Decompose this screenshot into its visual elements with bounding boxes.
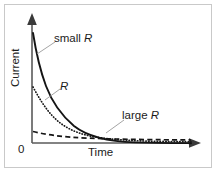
annotation-small-r-prefix: small xyxy=(54,32,84,44)
x-axis-label: Time xyxy=(88,147,113,159)
series-r-curve xyxy=(33,87,191,142)
annotation-small-r: small R xyxy=(54,33,92,45)
y-axis-label: Current xyxy=(10,39,22,97)
figure-container: small R R large R 0 Time Current xyxy=(0,0,217,175)
y-axis xyxy=(27,13,37,143)
annotation-large-r: large R xyxy=(122,110,159,122)
annotation-large-r-symbol: R xyxy=(151,109,159,121)
y-axis-arrowhead xyxy=(27,13,37,25)
origin-label: 0 xyxy=(18,144,24,156)
leader-line-large-r xyxy=(106,120,124,133)
annotation-r: R xyxy=(60,81,68,93)
leader-line-small-r xyxy=(37,42,55,54)
annotation-small-r-symbol: R xyxy=(84,32,92,44)
annotation-large-r-prefix: large xyxy=(122,109,151,121)
annotation-r-symbol: R xyxy=(60,80,68,92)
series-small-r-curve xyxy=(33,33,191,143)
